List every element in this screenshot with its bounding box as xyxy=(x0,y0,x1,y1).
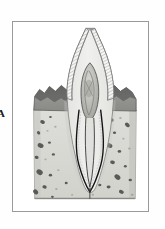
figure-root: A xyxy=(0,0,165,229)
bone-right-shadow xyxy=(129,110,136,199)
bone-speckle xyxy=(46,130,48,132)
panel-label-a: A xyxy=(0,108,5,119)
illustration-frame xyxy=(12,21,149,212)
bone-speckle xyxy=(52,153,55,155)
bone-speckle xyxy=(92,194,95,196)
bone-speckle xyxy=(119,117,122,119)
bone-speckle xyxy=(57,169,59,171)
bone-speckle xyxy=(54,126,57,128)
bone-left-shadow xyxy=(34,109,41,199)
tooth-cross-section-illustration xyxy=(13,22,148,211)
bone-speckle xyxy=(51,196,54,198)
bone-speckle xyxy=(107,185,111,188)
bone-speckle xyxy=(122,138,124,140)
bone-speckle xyxy=(128,148,131,150)
bone-speckle xyxy=(129,179,132,182)
bone-speckle xyxy=(113,132,116,134)
bone-speckle xyxy=(55,188,58,190)
bone-speckle xyxy=(124,165,127,167)
bone-speckle xyxy=(71,194,73,196)
bone-speckle xyxy=(131,194,134,196)
apical-foramen xyxy=(88,187,92,190)
bone-speckle xyxy=(49,116,52,118)
bone-speckle xyxy=(49,174,52,177)
bone-speckle xyxy=(44,158,46,160)
bone-speckle xyxy=(48,141,51,143)
bone-speckle xyxy=(118,150,122,153)
bone-speckle xyxy=(65,182,68,184)
